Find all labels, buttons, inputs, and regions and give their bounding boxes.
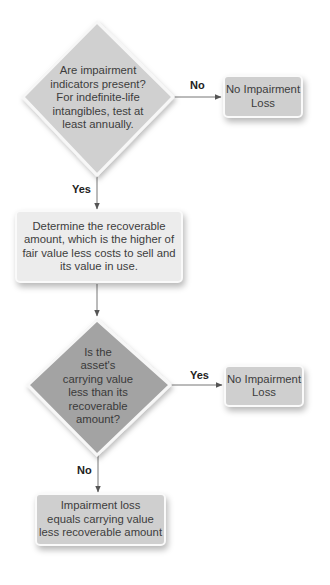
edge-label-carrying-yes: Yes xyxy=(190,369,209,381)
decision-impairment-indicators: Are impairment indicators present? For i… xyxy=(20,19,176,179)
text-line: No Impairment xyxy=(226,83,300,97)
text-line: amount? xyxy=(63,413,133,427)
decision-carrying-value-text: Is the asset's carrying value less than … xyxy=(49,340,147,432)
text-line: intangibles, test at xyxy=(50,105,145,119)
text-line: amount, which is the higher of xyxy=(22,233,175,247)
text-line: Is the xyxy=(63,346,133,360)
decision-impairment-indicators-text: Are impairment indicators present? For i… xyxy=(38,59,158,137)
text-line: less recoverable amount xyxy=(39,526,162,540)
text-line: recoverable xyxy=(63,400,133,414)
text-line: carrying value xyxy=(63,373,133,387)
no-impairment-loss-box-2: No Impairment Loss xyxy=(224,365,304,407)
text-line: Determine the recoverable xyxy=(22,220,175,234)
text-line: Loss xyxy=(226,97,300,111)
text-line: Impairment loss xyxy=(39,499,162,513)
text-line: asset's xyxy=(63,359,133,373)
edge-label-indicators-no: No xyxy=(190,79,205,91)
text-line: fair value less costs to sell and xyxy=(22,247,175,261)
text-line: least annually. xyxy=(50,118,145,132)
text-line: equals carrying value xyxy=(39,513,162,527)
text-line: Loss xyxy=(227,386,301,400)
impairment-flowchart: Are impairment indicators present? For i… xyxy=(0,0,330,585)
edge-label-carrying-no: No xyxy=(77,464,92,476)
text-line: Are impairment xyxy=(50,64,145,78)
text-line: For indefinite-life xyxy=(50,91,145,105)
text-line: less than its xyxy=(63,386,133,400)
text-line: No Impairment xyxy=(227,373,301,387)
determine-recoverable-amount-box: Determine the recoverable amount, which … xyxy=(15,210,183,283)
edge-label-indicators-yes: Yes xyxy=(72,183,91,195)
decision-carrying-value: Is the asset's carrying value less than … xyxy=(25,317,173,459)
no-impairment-loss-box-1: No Impairment Loss xyxy=(223,75,303,118)
text-line: indicators present? xyxy=(50,78,145,92)
text-line: its value in use. xyxy=(22,260,175,274)
impairment-loss-box: Impairment loss equals carrying value le… xyxy=(35,493,166,546)
